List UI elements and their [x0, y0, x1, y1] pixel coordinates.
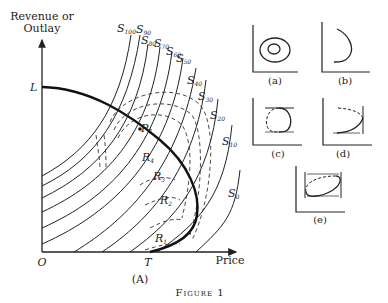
- point-p-label: P1: [140, 122, 153, 136]
- y-axis-label-line2: Outlay: [24, 22, 62, 35]
- svg-text:S50: S50: [176, 52, 191, 65]
- svg-text:S100: S100: [117, 22, 136, 35]
- subfigure-c-label: (c): [271, 148, 285, 159]
- heavy-locus-curve: [42, 87, 198, 252]
- svg-text:S20: S20: [210, 109, 225, 122]
- figure-canvas: Revenue or Outlay Price O L T (A) P1 S10…: [0, 0, 388, 303]
- subfigure-b: [322, 22, 370, 72]
- origin-label: O: [37, 256, 46, 269]
- panel-a-label: (A): [132, 273, 149, 286]
- svg-text:S0: S0: [228, 187, 240, 200]
- s-curves: [42, 35, 240, 252]
- svg-text:R3: R3: [152, 170, 165, 183]
- x-axis-label: Price: [216, 254, 245, 267]
- point-t-label: T: [144, 256, 153, 269]
- svg-text:R4: R4: [141, 151, 154, 164]
- svg-text:R2: R2: [159, 194, 172, 207]
- svg-text:S10: S10: [222, 135, 237, 148]
- s-curve-labels: S100 S90 S80 S70 S60 S50 S40 S30 S20 S10…: [117, 22, 240, 200]
- subfigure-d: [323, 98, 372, 145]
- subfigure-e: [296, 166, 345, 212]
- subfigure-d-label: (d): [336, 148, 350, 159]
- subfigure-e-label: (e): [313, 214, 327, 225]
- svg-text:R1: R1: [154, 232, 167, 245]
- main-axes: [42, 40, 236, 252]
- point-l-label: L: [29, 81, 37, 94]
- main-labels: Revenue or Outlay Price O L T (A) P1: [10, 10, 244, 286]
- subfigure-a: [253, 25, 298, 72]
- subfigure-a-label: (a): [268, 75, 282, 86]
- subfigure-c: [253, 98, 302, 145]
- subfigure-b-label: (b): [338, 75, 352, 86]
- figure-caption: Figure 1: [175, 287, 224, 298]
- svg-text:S30: S30: [198, 90, 213, 103]
